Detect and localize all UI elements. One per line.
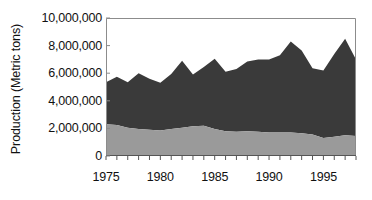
- y-tick-label: 0: [10, 149, 102, 163]
- chart-canvas: [106, 18, 356, 161]
- x-tick-label: 1980: [130, 170, 190, 184]
- x-tick-label: 1975: [76, 170, 136, 184]
- y-tick-label: 10,000,000: [10, 11, 102, 25]
- x-tick-label: 1985: [185, 170, 245, 184]
- series-area-upper: [106, 39, 356, 138]
- y-tick-label: 2,000,000: [10, 121, 102, 135]
- plot-area: [106, 18, 356, 156]
- stacked-area-chart: Production (Metric tons) 10,000,0008,000…: [0, 0, 372, 200]
- y-tick-label: 4,000,000: [10, 94, 102, 108]
- y-tick-label: 6,000,000: [10, 66, 102, 80]
- x-tick-label: 1990: [239, 170, 299, 184]
- y-tick-label: 8,000,000: [10, 39, 102, 53]
- x-tick-label: 1995: [293, 170, 353, 184]
